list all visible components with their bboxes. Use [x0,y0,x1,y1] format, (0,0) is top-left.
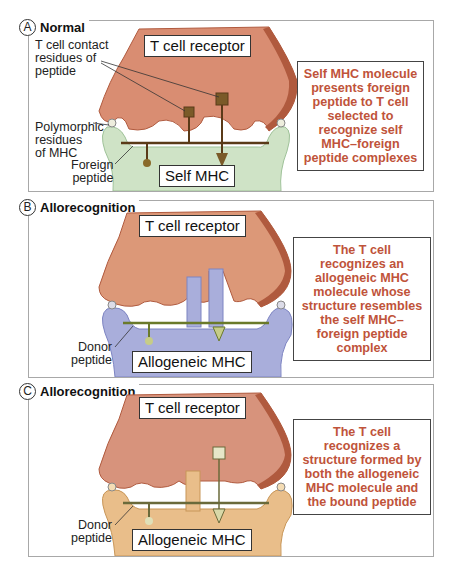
tcr-label: T cell receptor [139,397,246,419]
callout-contact-residues: T cell contact residues of peptide [35,39,108,78]
callout-donor-peptide: Donor peptide [71,519,112,545]
callout-donor-peptide: Donor peptide [71,341,112,367]
panel-normal: A Normal T cell contact residues of pept… [28,20,434,192]
mhc-label: Allogeneic MHC [132,351,252,373]
tcr-label: T cell receptor [139,215,246,237]
mhc-label: Allogeneic MHC [132,529,252,551]
panel-allorecognition-b: B Allorecognition Donor peptide T cell r… [28,200,434,378]
callout-foreign-peptide: Foreign peptide [71,159,113,185]
panel-allorecognition-c: C Allorecognition Donor peptide T cell r… [28,384,434,557]
callout-polymorphic-residues: Polymorphic residues of MHC [35,121,104,160]
description-box: The T cell recognizes an allogeneic MHC … [293,237,431,361]
description-box: The T cell recognizes a structure formed… [293,419,431,515]
mhc-label: Self MHC [159,165,235,187]
tcr-label: T cell receptor [144,35,251,57]
description-box: Self MHC molecule presents foreign pepti… [297,61,424,171]
